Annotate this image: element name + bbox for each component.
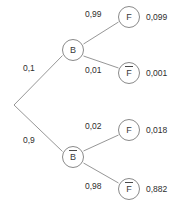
edge-label-root-b: 0,1 (23, 64, 35, 73)
edge-b-to-f-top (84, 22, 119, 44)
node-f-bar-bot: F (118, 178, 140, 200)
tree-edges (0, 0, 184, 208)
node-f-top-label: F (126, 12, 132, 22)
probability-tree-diagram: B B F F F F 0,1 0,9 0,99 0,01 0,02 0,98 … (0, 0, 184, 208)
node-f-bar-top-label: F (126, 68, 132, 78)
edge-root-to-b (14, 56, 63, 106)
node-b-bar-label: B (70, 152, 76, 162)
node-f-top: F (118, 6, 140, 28)
node-f-bar-bot-label: F (126, 184, 132, 194)
edge-root-to-bbar (14, 105, 63, 152)
node-b: B (62, 39, 84, 61)
result-label-b-fbar: 0,001 (146, 69, 167, 78)
result-label-bbar-f: 0,018 (146, 126, 167, 135)
edge-label-b-f-top: 0,99 (85, 10, 102, 19)
node-f-bot-label: F (126, 125, 132, 135)
node-b-bar: B (62, 146, 84, 168)
edge-bbar-to-f-bot (84, 135, 119, 151)
edge-label-root-bbar: 0,9 (23, 136, 35, 145)
result-label-b-f: 0,099 (146, 13, 167, 22)
edge-label-b-fbar-top: 0,01 (85, 66, 102, 75)
edge-label-bbar-fbar-bot: 0,98 (85, 182, 102, 191)
node-f-bot: F (118, 119, 140, 141)
edge-label-bbar-f-bot: 0,02 (85, 122, 102, 131)
node-b-label: B (70, 45, 76, 55)
result-label-bbar-fbar: 0,882 (146, 185, 167, 194)
edge-bbar-to-fbar-bot (84, 163, 119, 183)
node-f-bar-top: F (118, 62, 140, 84)
